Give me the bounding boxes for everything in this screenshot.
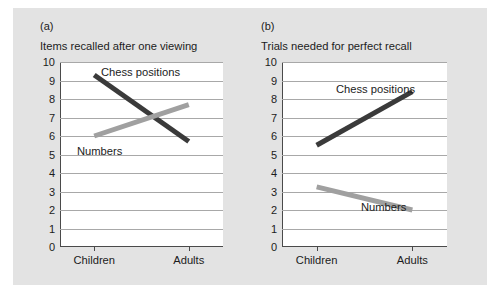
plot-area-a: 012345678910 ChildrenAdults Chess positi… [60, 62, 223, 247]
panel-letter-a: (a) [40, 20, 53, 32]
y-tick-label: 2 [271, 205, 277, 216]
y-tick-label: 8 [271, 94, 277, 105]
x-tick-label: Children [73, 254, 115, 266]
chart-panel-a: (a) Items recalled after one viewing 012… [13, 8, 245, 285]
y-tick-label: 5 [49, 149, 55, 160]
y-tick-label: 6 [271, 131, 277, 142]
y-tick-label: 7 [49, 112, 55, 123]
y-tick-label: 10 [265, 57, 277, 68]
x-tick-mark [412, 247, 413, 251]
x-tick-mark [94, 247, 95, 251]
y-tick-label: 4 [49, 168, 55, 179]
y-tick-label: 6 [49, 131, 55, 142]
series-line [317, 92, 413, 146]
y-tick-label: 8 [49, 94, 55, 105]
y-tick-label: 4 [271, 168, 277, 179]
panel-title-b: Trials needed for perfect recall [261, 40, 412, 52]
y-tick-label: 7 [271, 112, 277, 123]
y-tick-label: 1 [271, 223, 277, 234]
series-label-chess-b: Chess positions [336, 83, 415, 95]
y-tick-label: 5 [271, 149, 277, 160]
y-tick-label: 2 [49, 205, 55, 216]
x-tick-label: Adults [173, 254, 204, 266]
chart-panel-b: (b) Trials needed for perfect recall 012… [245, 8, 487, 285]
figure-card: (a) Items recalled after one viewing 012… [13, 8, 487, 285]
y-tick-label: 3 [49, 186, 55, 197]
y-tick-label: 9 [271, 75, 277, 86]
panel-letter-b: (b) [261, 20, 274, 32]
y-tick-label: 0 [271, 242, 277, 253]
x-tick-label: Children [296, 254, 338, 266]
plot-area-b: 012345678910 ChildrenAdults Chess positi… [282, 62, 447, 247]
x-tick-mark [189, 247, 190, 251]
y-tick-label: 9 [49, 75, 55, 86]
panel-title-a: Items recalled after one viewing [40, 40, 197, 52]
y-tick-label: 1 [49, 223, 55, 234]
series-label-chess-a: Chess positions [101, 66, 180, 78]
y-tick-label: 0 [49, 242, 55, 253]
y-tick-label: 10 [43, 57, 55, 68]
series-label-numbers-a: Numbers [77, 145, 122, 157]
y-tick-label: 3 [271, 186, 277, 197]
series-label-numbers-b: Numbers [361, 201, 406, 213]
x-tick-mark [317, 247, 318, 251]
x-tick-label: Adults [397, 254, 428, 266]
